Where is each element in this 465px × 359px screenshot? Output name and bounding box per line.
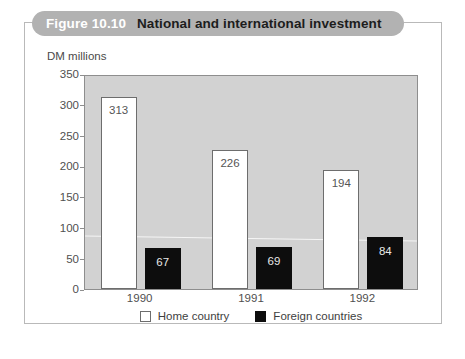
legend-item-home-country: Home country: [140, 310, 230, 322]
figure-number: Figure 10.10: [46, 16, 126, 31]
legend-label: Home country: [158, 310, 230, 322]
x-axis-tick-label-1992: 1992: [350, 292, 376, 304]
x-axis-tick-label-1991: 1991: [238, 292, 264, 304]
legend-swatch: [255, 311, 266, 322]
bar-value-label: 313: [102, 105, 136, 117]
x-axis: 199019911992: [84, 292, 418, 310]
bar-value-label: 67: [145, 257, 181, 269]
legend-swatch: [140, 311, 151, 322]
legend-label: Foreign countries: [273, 310, 362, 322]
x-axis-tick-label-1990: 1990: [127, 292, 153, 304]
bar-foreign-countries-1991: 69: [256, 247, 292, 289]
bar-home-country-1990: 313: [101, 97, 137, 289]
bar-group-1992: 19484: [308, 76, 418, 289]
page-title: National and international investment: [137, 16, 382, 31]
bar-home-country-1992: 194: [323, 170, 359, 289]
plot-area: 313672266919484: [84, 75, 418, 290]
bar-group-1990: 31367: [85, 76, 196, 289]
bar-home-country-1991: 226: [212, 150, 248, 289]
bar-foreign-countries-1992: 84: [367, 237, 403, 289]
bar-foreign-countries-1990: 67: [145, 248, 181, 289]
bar-value-label: 69: [256, 256, 292, 268]
y-axis-unit-label: DM millions: [47, 50, 106, 62]
bar-group-1991: 22669: [196, 76, 307, 289]
bar-value-label: 84: [367, 246, 403, 258]
figure-title-banner: Figure 10.10 National and international …: [32, 11, 404, 36]
y-axis: 050100150200250300350: [40, 75, 84, 290]
legend-item-foreign-countries: Foreign countries: [255, 310, 362, 322]
chart-legend: Home countryForeign countries: [84, 310, 418, 322]
bar-value-label: 194: [324, 178, 358, 190]
bar-value-label: 226: [213, 158, 247, 170]
